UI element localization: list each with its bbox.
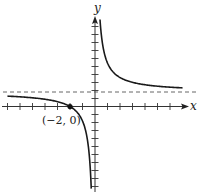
curve-right-branch — [100, 20, 183, 88]
x-intercept-point — [67, 104, 72, 109]
x-axis-label: x — [190, 99, 197, 113]
point-label: (−2, 0) — [42, 114, 81, 127]
y-axis-label: y — [93, 1, 101, 15]
hyperbola-graph: (−2, 0) x y — [0, 0, 200, 195]
axes — [2, 16, 189, 192]
curve-left-branch — [8, 96, 92, 189]
